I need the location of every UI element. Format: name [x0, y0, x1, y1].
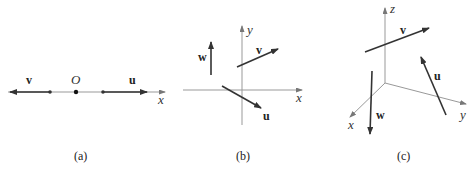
label-x-axis: x [295, 90, 302, 105]
label-u: u [129, 73, 136, 87]
label-x-axis: x [347, 117, 354, 132]
vector-u-arrow [421, 57, 446, 115]
y-axis-line [385, 83, 466, 104]
label-v: v [256, 43, 262, 57]
label-v: v [400, 23, 406, 37]
label-origin: O [71, 72, 81, 87]
panel-a: v O u x (a) [8, 72, 165, 163]
caption-b: (b) [236, 149, 250, 163]
point-v-tail [48, 90, 52, 94]
label-z-axis: z [389, 1, 395, 16]
label-u: u [434, 69, 441, 83]
label-v: v [26, 73, 32, 87]
label-w: w [376, 108, 385, 122]
point-u-tail [101, 90, 105, 94]
caption-a: (a) [74, 149, 87, 163]
panel-b: w v u x y (b) [183, 22, 302, 163]
vector-w-arrow [370, 71, 372, 134]
panel-c: v u w x y z (c) [347, 1, 466, 163]
origin-point [74, 90, 78, 94]
caption-c: (c) [397, 149, 410, 163]
vector-diagram: v O u x (a) w v u x y (b) v u w x y z (c… [0, 0, 475, 175]
label-x-axis: x [157, 92, 164, 107]
label-y-axis: y [245, 22, 253, 37]
vector-v-arrow [365, 28, 429, 52]
label-u: u [263, 109, 270, 123]
label-w: w [198, 50, 207, 64]
label-y-axis: y [458, 107, 466, 122]
